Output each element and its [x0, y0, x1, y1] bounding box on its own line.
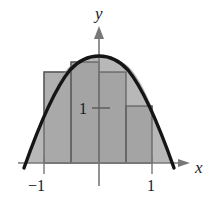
parabola-riemann-figure: y x −1 1 1 [0, 0, 214, 197]
y-axis-label: y [93, 4, 103, 23]
figure-container: y x −1 1 1 [0, 0, 214, 197]
x-tick-label-minus-one: −1 [28, 177, 45, 194]
y-tick-label-one: 1 [79, 100, 87, 117]
x-tick-label-one: 1 [147, 177, 155, 194]
x-axis-label: x [194, 158, 203, 177]
